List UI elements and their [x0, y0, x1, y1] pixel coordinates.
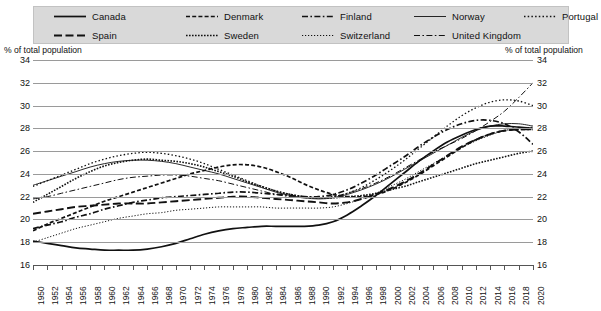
- x-tick-label-1990: 1990: [322, 286, 330, 305]
- x-tick-label-1996: 1996: [365, 286, 373, 305]
- y-tick-label-30: 30: [537, 102, 559, 111]
- series-line-united-kingdom: [33, 83, 533, 199]
- x-tick-label-1978: 1978: [237, 286, 245, 305]
- x-tick-label-2014: 2014: [494, 286, 502, 305]
- series-line-norway: [33, 123, 533, 198]
- x-tick-label-1970: 1970: [179, 286, 187, 305]
- x-tick-label-1954: 1954: [65, 286, 73, 305]
- y-tick-label-16: 16: [537, 261, 559, 270]
- gridline-28: [33, 128, 533, 129]
- x-tick-mark-1962: [119, 265, 120, 270]
- y-tick-label-32: 32: [8, 79, 30, 88]
- legend-line-dotted-fine: [302, 31, 334, 40]
- gridline-32: [33, 83, 533, 84]
- x-tick-mark-1956: [76, 265, 77, 270]
- x-tick-mark-1952: [47, 265, 48, 270]
- x-tick-label-1958: 1958: [94, 286, 102, 305]
- x-tick-label-1980: 1980: [251, 286, 259, 305]
- legend-line-solid: [54, 12, 86, 21]
- y-axis-title-right: % of total population: [505, 46, 583, 55]
- x-tick-label-2012: 2012: [479, 286, 487, 305]
- legend-line-dotted-dense: [186, 31, 218, 40]
- y-tick-label-34: 34: [8, 56, 30, 65]
- chart-legend: CanadaDenmarkFinlandNorwayPortugalSpainS…: [33, 6, 569, 44]
- y-tick-label-22: 22: [537, 193, 559, 202]
- x-tick-label-1986: 1986: [294, 286, 302, 305]
- series-line-spain: [33, 129, 533, 213]
- x-tick-mark-1968: [162, 265, 163, 270]
- chart-plot-area: [33, 60, 533, 265]
- y-tick-label-28: 28: [8, 124, 30, 133]
- x-tick-label-1998: 1998: [379, 286, 387, 305]
- y-tick-label-20: 20: [537, 215, 559, 224]
- legend-label: Canada: [92, 12, 126, 22]
- x-tick-label-1952: 1952: [51, 286, 59, 305]
- y-tick-label-32: 32: [537, 79, 559, 88]
- x-tick-mark-2016: [504, 265, 505, 270]
- legend-label: Switzerland: [340, 31, 390, 41]
- legend-label: Spain: [92, 31, 117, 41]
- x-tick-mark-2012: [476, 265, 477, 270]
- x-tick-mark-1988: [304, 265, 305, 270]
- x-tick-mark-1964: [133, 265, 134, 270]
- y-tick-label-24: 24: [537, 170, 559, 179]
- legend-label: Sweden: [224, 31, 259, 41]
- y-tick-label-24: 24: [8, 170, 30, 179]
- x-tick-label-1966: 1966: [151, 286, 159, 305]
- legend-item-finland: Finland: [302, 12, 372, 22]
- gridline-18: [33, 242, 533, 243]
- legend-label: Norway: [452, 12, 485, 22]
- legend-line-dash-dot: [302, 12, 334, 21]
- x-tick-label-1956: 1956: [79, 286, 87, 305]
- y-tick-label-34: 34: [537, 56, 559, 65]
- x-tick-label-2004: 2004: [422, 286, 430, 305]
- y-tick-label-22: 22: [8, 193, 30, 202]
- series-line-canada: [33, 126, 533, 251]
- legend-item-spain: Spain: [54, 31, 117, 41]
- x-tick-label-1982: 1982: [265, 286, 273, 305]
- legend-item-portugal: Portugal: [524, 12, 598, 22]
- legend-item-switzerland: Switzerland: [302, 31, 390, 41]
- gridline-26: [33, 151, 533, 152]
- x-tick-label-2006: 2006: [437, 286, 445, 305]
- legend-item-norway: Norway: [414, 12, 485, 22]
- x-tick-label-2016: 2016: [508, 286, 516, 305]
- y-tick-label-20: 20: [8, 215, 30, 224]
- x-tick-mark-1958: [90, 265, 91, 270]
- legend-item-denmark: Denmark: [186, 12, 263, 22]
- x-tick-mark-2020: [533, 265, 534, 270]
- x-tick-mark-1976: [219, 265, 220, 270]
- x-axis: 1950195219541956195819601962196419661968…: [33, 265, 533, 311]
- x-tick-mark-1992: [333, 265, 334, 270]
- x-tick-mark-1980: [247, 265, 248, 270]
- x-tick-mark-2004: [419, 265, 420, 270]
- x-tick-mark-1986: [290, 265, 291, 270]
- x-tick-label-2010: 2010: [465, 286, 473, 305]
- x-tick-label-1950: 1950: [37, 286, 45, 305]
- x-tick-mark-1998: [376, 265, 377, 270]
- gridline-34: [33, 60, 533, 61]
- x-tick-mark-1950: [33, 265, 34, 270]
- legend-label: Portugal: [562, 12, 598, 22]
- x-tick-mark-2018: [519, 265, 520, 270]
- x-tick-mark-1960: [104, 265, 105, 270]
- x-tick-label-1984: 1984: [279, 286, 287, 305]
- x-tick-label-1960: 1960: [108, 286, 116, 305]
- x-tick-mark-1972: [190, 265, 191, 270]
- x-tick-label-1962: 1962: [122, 286, 130, 305]
- chart-series-lines: [33, 60, 533, 265]
- legend-item-sweden: Sweden: [186, 31, 259, 41]
- legend-line-dashed-long: [54, 31, 86, 40]
- x-tick-mark-2000: [390, 265, 391, 270]
- x-tick-mark-1984: [276, 265, 277, 270]
- x-tick-mark-1996: [362, 265, 363, 270]
- x-tick-mark-1966: [147, 265, 148, 270]
- x-tick-label-1992: 1992: [337, 286, 345, 305]
- y-tick-label-30: 30: [8, 102, 30, 111]
- x-tick-mark-2006: [433, 265, 434, 270]
- y-tick-label-26: 26: [537, 147, 559, 156]
- gridline-22: [33, 197, 533, 198]
- x-tick-mark-1990: [319, 265, 320, 270]
- x-tick-label-1964: 1964: [137, 286, 145, 305]
- x-tick-mark-1982: [262, 265, 263, 270]
